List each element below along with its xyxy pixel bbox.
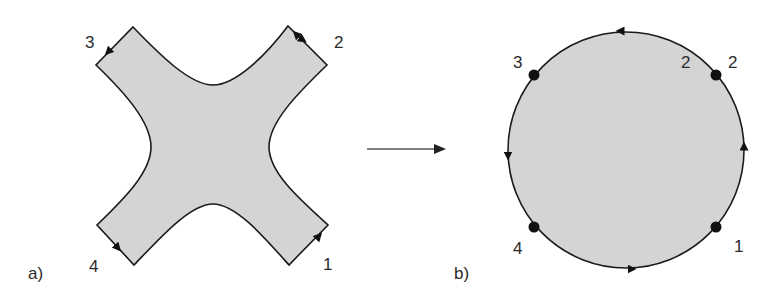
point-2 (711, 70, 722, 81)
label-b-1: 1 (734, 237, 743, 256)
label-b-4: 4 (513, 239, 522, 258)
point-4 (529, 222, 540, 233)
transition-arrow-icon (367, 144, 446, 154)
panel-a-label: a) (28, 264, 43, 283)
cross-shape (96, 26, 328, 265)
label-a-2: 2 (334, 33, 343, 52)
label-a-1: 1 (323, 255, 332, 274)
disk-shape (508, 32, 744, 268)
label-b-2-inner: 2 (681, 53, 690, 72)
label-a-3: 3 (85, 33, 94, 52)
diagram-canvas: 3 2 4 1 a) 3 2 2 4 1 b) (0, 0, 775, 300)
panel-b-label: b) (454, 264, 469, 283)
point-1 (711, 222, 722, 233)
label-b-3: 3 (513, 53, 522, 72)
label-a-4: 4 (89, 257, 98, 276)
label-b-2-outer: 2 (728, 53, 737, 72)
point-3 (529, 70, 540, 81)
